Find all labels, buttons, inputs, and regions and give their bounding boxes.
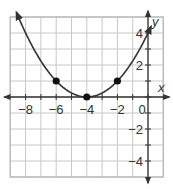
y-tick-label: −2 [128, 122, 143, 137]
x-tick-label: −8 [18, 102, 33, 117]
parabola-graph: −8−6−4−242−2−4 x y 0 [0, 0, 173, 189]
origin-label: 0 [138, 102, 145, 117]
parabola-curve [16, 12, 151, 97]
x-tick-label: −6 [49, 102, 64, 117]
y-tick-label: 4 [136, 26, 143, 41]
data-point [114, 77, 121, 84]
y-tick-label: 2 [136, 58, 143, 73]
x-tick-label: −4 [79, 102, 94, 117]
y-tick-label: −4 [128, 154, 143, 169]
data-point [83, 93, 90, 100]
data-point [53, 77, 60, 84]
x-tick-label: −2 [110, 102, 125, 117]
x-axis-label: x [157, 80, 165, 95]
